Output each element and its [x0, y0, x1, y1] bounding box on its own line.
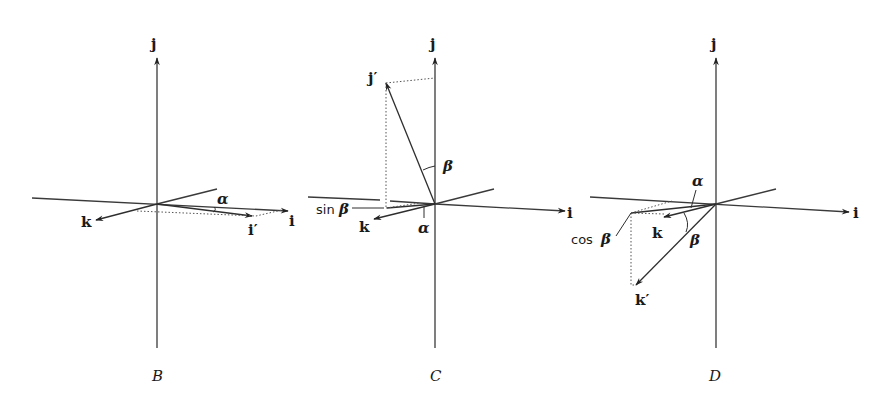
- panel-b: j i k i′ α B: [32, 35, 295, 385]
- label-i: i: [567, 204, 573, 222]
- label-cos-beta: cos β: [571, 230, 611, 248]
- projection-dotted-top: [386, 78, 435, 83]
- sin-beta-symbol: β: [338, 200, 349, 218]
- label-beta: β: [442, 157, 453, 175]
- label-beta: β: [689, 231, 700, 249]
- sin-text: sin: [316, 202, 335, 217]
- label-sin-beta: sin β: [316, 200, 349, 218]
- k-vector: [96, 204, 157, 220]
- k-prime-vector: [636, 204, 716, 285]
- label-i: i: [853, 204, 859, 222]
- label-j: j: [709, 35, 716, 53]
- k-vector: [664, 204, 716, 217]
- label-k: k: [359, 218, 370, 236]
- j-prime-vector: [386, 83, 435, 204]
- label-k-prime: k′: [635, 291, 649, 309]
- panel-caption-c: C: [430, 367, 442, 385]
- label-k: k: [652, 224, 663, 242]
- beta-arc: [684, 213, 688, 232]
- panel-d: j i k k′ α β cos β D: [571, 35, 859, 385]
- rotation-diagram-figure: j i k i′ α B j i k j′ β α: [0, 0, 881, 399]
- label-alpha: α: [418, 219, 430, 237]
- panel-c: j i k j′ β α sin β C: [308, 35, 573, 385]
- label-i: i: [289, 212, 295, 230]
- projection-dotted-vertical: [631, 213, 636, 285]
- cos-beta-leader: [616, 213, 631, 236]
- projection-dotted-bottom: [631, 213, 664, 214]
- i-axis: [590, 197, 849, 212]
- label-alpha: α: [692, 172, 704, 190]
- k-axis-back: [716, 189, 776, 204]
- label-alpha: α: [217, 190, 229, 208]
- alpha-leader: [691, 190, 696, 208]
- label-i-prime: i′: [248, 221, 258, 239]
- cos-beta-component: [631, 204, 716, 213]
- label-k: k: [81, 213, 92, 231]
- k-axis-back: [157, 189, 217, 204]
- cos-text: cos: [571, 232, 593, 247]
- panel-caption-b: B: [151, 367, 163, 385]
- cos-beta-symbol: β: [600, 230, 611, 248]
- label-j: j: [428, 35, 435, 53]
- label-j-prime: j′: [366, 69, 377, 87]
- panel-caption-d: D: [708, 367, 721, 385]
- beta-arc: [423, 166, 435, 170]
- i-axis: [435, 204, 565, 211]
- i-axis-left-2: [390, 201, 435, 204]
- label-j: j: [149, 35, 156, 53]
- k-axis-back: [435, 189, 494, 204]
